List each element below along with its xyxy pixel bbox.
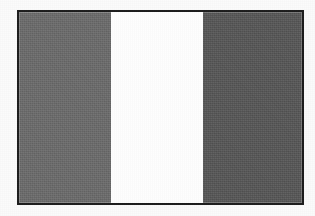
flag-band-middle xyxy=(111,12,203,203)
flag-image-page xyxy=(0,0,315,216)
flag-plate xyxy=(17,10,304,205)
flag-bands xyxy=(19,12,302,203)
flag-band-hoist xyxy=(19,12,111,203)
flag-band-fly xyxy=(203,12,302,203)
